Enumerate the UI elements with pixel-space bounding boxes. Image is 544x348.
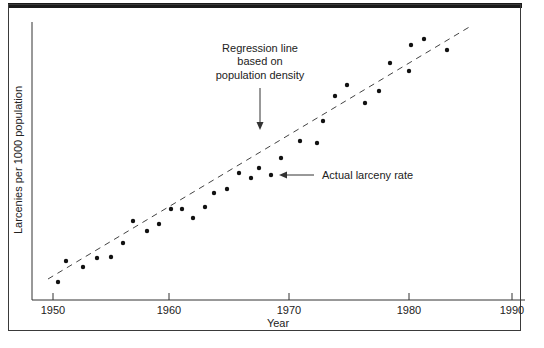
arrowhead-left-icon <box>279 172 287 179</box>
annotation-regression-line2: based on <box>237 55 282 67</box>
x-ticks <box>53 293 512 300</box>
x-axis-label: Year <box>267 317 290 329</box>
x-tick-label: 1990 <box>500 304 524 316</box>
y-axis-label: Larcenies per 1000 population <box>12 86 24 234</box>
arrowhead-down-icon <box>257 122 264 130</box>
annotation-regression-line1: Regression line <box>222 42 298 54</box>
x-tick-label: 1960 <box>157 304 181 316</box>
x-tick-label: 1950 <box>41 304 65 316</box>
chart-plot: 1950 1960 1970 1980 1990 Year Larcenies … <box>0 0 544 348</box>
x-tick-label: 1970 <box>277 304 301 316</box>
annotation-actual-rate: Actual larceny rate <box>322 169 413 181</box>
x-tick-label: 1980 <box>397 304 421 316</box>
annotation-regression-line3: population density <box>216 69 305 81</box>
